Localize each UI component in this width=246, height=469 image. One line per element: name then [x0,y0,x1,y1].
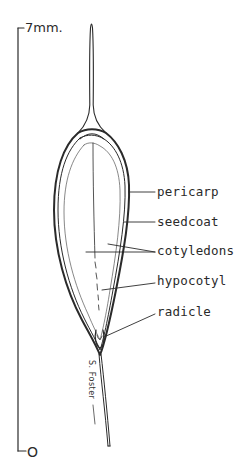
leader-radicle [104,314,155,337]
seed-diagram [0,0,246,469]
artist-signature: S. Foster [87,360,96,399]
scale-bottom-label: O [27,445,38,459]
label-seedcoat: seedcoat [157,216,219,229]
seed-tail [99,354,110,446]
label-radicle: radicle [157,306,211,319]
signature-line [93,405,95,424]
scale-top-label: 7mm. [25,21,63,34]
label-pericarp: pericarp [157,186,219,199]
label-cotyledons: cotyledons [157,245,234,258]
label-hypocotyl: hypocotyl [157,275,227,288]
leader-hypocotyl [102,283,155,290]
seed-beak [78,24,106,133]
leader-cotyledons-a [108,244,155,252]
scale-bar [18,28,26,451]
pericarp-outline [54,129,129,355]
seedcoat-outline [58,134,125,350]
